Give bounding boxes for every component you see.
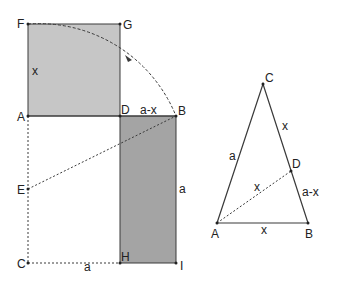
label-E: E bbox=[17, 183, 25, 197]
label-I: I bbox=[180, 259, 183, 273]
label-A: A bbox=[17, 110, 25, 124]
figure-golden-ratio-construction: F G A D B E C H I x a-x a a bbox=[17, 17, 186, 274]
geometry-diagram: F G A D B E C H I x a-x a a A B C D a x … bbox=[0, 0, 337, 287]
segment-label-tri-CD: x bbox=[282, 119, 288, 133]
dashed-AD bbox=[217, 171, 291, 223]
segment-label-CH: a bbox=[84, 260, 91, 274]
label-tri-A: A bbox=[211, 227, 219, 241]
segment-label-tri-AB: x bbox=[261, 223, 267, 237]
label-H: H bbox=[121, 250, 130, 264]
segment-label-tri-AC: a bbox=[229, 149, 236, 163]
rectangle-DBIH bbox=[120, 116, 176, 263]
segment-label-DB: a-x bbox=[140, 103, 157, 117]
segment-label-tri-DB: a-x bbox=[302, 185, 319, 199]
square-AFGD bbox=[28, 24, 120, 116]
segment-label-AF: x bbox=[32, 64, 38, 78]
label-tri-D: D bbox=[292, 157, 301, 171]
label-F: F bbox=[17, 17, 24, 31]
label-tri-B: B bbox=[305, 227, 313, 241]
label-C: C bbox=[17, 257, 26, 271]
label-D: D bbox=[121, 103, 130, 117]
segment-label-tri-AD: x bbox=[254, 180, 260, 194]
label-G: G bbox=[123, 18, 132, 32]
label-B: B bbox=[178, 104, 186, 118]
label-tri-C: C bbox=[265, 71, 274, 85]
figure-golden-triangle: A B C D a x a-x x x bbox=[211, 71, 319, 241]
segment-label-BI: a bbox=[179, 182, 186, 196]
